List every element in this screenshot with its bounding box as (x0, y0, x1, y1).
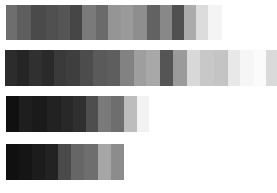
swatch-segment (254, 50, 266, 86)
swatch-segment (86, 96, 98, 132)
swatch-segment (73, 96, 86, 132)
swatch-segment (80, 50, 93, 86)
swatch-segment (46, 5, 58, 40)
swatch-segment (160, 50, 173, 86)
swatch-segment (187, 50, 200, 86)
swatch-segment (58, 5, 70, 40)
swatch-segment (266, 50, 277, 86)
swatch-segment (214, 50, 228, 86)
swatch-strip-4 (6, 144, 124, 180)
swatch-segment (93, 50, 107, 86)
swatch-segment (208, 5, 222, 40)
swatch-segment (47, 96, 61, 132)
swatch-segment (121, 5, 133, 40)
swatch-segment (120, 50, 134, 86)
swatch-strip-1 (6, 5, 222, 40)
swatch-segment (82, 5, 96, 40)
swatch-segment (17, 50, 29, 86)
swatch-segment (146, 50, 160, 86)
swatch-segment (240, 50, 254, 86)
swatch-segment (98, 96, 111, 132)
swatch-segment (111, 96, 124, 132)
swatch-segment (5, 50, 17, 86)
swatch-segment (96, 5, 108, 40)
swatch-segment (6, 5, 17, 40)
swatch-segment (184, 5, 196, 40)
swatch-segment (71, 144, 84, 180)
swatch-segment (111, 144, 124, 180)
swatch-segment (137, 96, 149, 132)
swatch-segment (133, 5, 147, 40)
swatch-segment (160, 5, 172, 40)
swatch-segment (108, 5, 121, 40)
swatch-strip-2 (5, 50, 277, 86)
swatch-canvas (0, 0, 277, 193)
swatch-segment (107, 50, 120, 86)
swatch-segment (173, 50, 187, 86)
swatch-segment (31, 5, 46, 40)
swatch-segment (61, 96, 73, 132)
swatch-segment (19, 96, 32, 132)
swatch-segment (147, 5, 160, 40)
swatch-segment (84, 144, 98, 180)
swatch-segment (70, 5, 82, 40)
swatch-segment (6, 144, 19, 180)
swatch-segment (6, 96, 19, 132)
swatch-segment (29, 50, 42, 86)
swatch-segment (172, 5, 184, 40)
swatch-segment (45, 144, 58, 180)
swatch-segment (124, 96, 137, 132)
swatch-strip-3 (6, 96, 149, 132)
swatch-segment (42, 50, 54, 86)
swatch-segment (196, 5, 208, 40)
swatch-segment (228, 50, 240, 86)
swatch-segment (134, 50, 146, 86)
swatch-segment (32, 144, 45, 180)
swatch-segment (58, 144, 71, 180)
swatch-segment (54, 50, 66, 86)
swatch-segment (66, 50, 80, 86)
swatch-segment (98, 144, 111, 180)
swatch-segment (200, 50, 214, 86)
swatch-segment (32, 96, 47, 132)
swatch-segment (17, 5, 31, 40)
swatch-segment (19, 144, 32, 180)
